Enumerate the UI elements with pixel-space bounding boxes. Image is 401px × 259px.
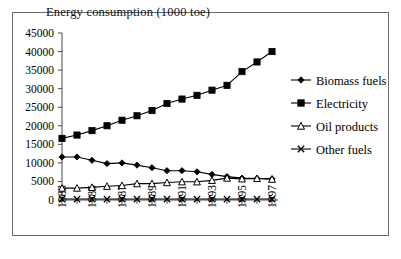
x-tick-label: 1993 [206,185,218,208]
legend-item-oil-products[interactable]: Oil products [291,120,378,134]
data-point-square-filled [164,100,170,106]
data-point-square-filled [59,135,65,141]
y-tick-label: 10000 [25,157,54,169]
legend-item-electricity[interactable]: Electricity [291,97,369,111]
data-point-diamond-filled [149,165,155,171]
legend-label: Electricity [316,97,369,111]
data-point-diamond-filled [298,77,304,83]
data-point-diamond-filled [74,154,80,160]
data-point-square-filled [149,107,155,113]
y-tick-label: 0 [48,194,54,206]
legend-label: Biomass fuels [316,74,387,88]
data-point-diamond-filled [134,162,140,168]
x-tick-label: 1997 [266,185,278,208]
y-tick-label: 25000 [25,101,54,113]
y-tick-label: 35000 [25,64,54,76]
x-tick-label: 1995 [236,185,248,208]
data-point-diamond-filled [89,157,95,163]
y-tick-label: 40000 [25,46,54,58]
legend-label: Oil products [316,120,378,134]
y-tick-label: 20000 [25,120,54,132]
data-point-square-filled [119,117,125,123]
y-tick-label: 30000 [25,83,54,95]
data-point-square-filled [298,100,304,106]
data-point-square-filled [209,87,215,93]
legend-item-other-fuels[interactable]: Other fuels [291,143,372,157]
data-point-diamond-filled [59,154,65,160]
data-point-square-filled [269,48,275,54]
figure: Energy consumption (1000 toe) 0500010000… [0,0,401,259]
data-point-square-filled [179,96,185,102]
series-layer [59,48,276,202]
data-point-square-filled [224,82,230,88]
legend-label: Other fuels [316,143,372,157]
data-point-square-filled [74,132,80,138]
data-point-diamond-filled [194,169,200,175]
y-tick-label: 45000 [25,27,54,39]
data-point-square-filled [194,92,200,98]
data-point-diamond-filled [179,168,185,174]
y-tick-label: 15000 [25,138,54,150]
data-point-diamond-filled [164,168,170,174]
y-tick-label: 5000 [31,175,54,187]
x-tick-label: 1991 [176,185,188,208]
chart-plot: 0500010000150002000025000300003500040000… [0,0,401,259]
data-point-diamond-filled [119,160,125,166]
x-tick-label: 1989 [146,185,158,208]
data-point-square-filled [134,113,140,119]
data-point-square-filled [104,123,110,129]
data-point-diamond-filled [104,161,110,167]
legend-item-biomass-fuels[interactable]: Biomass fuels [291,74,387,88]
data-point-square-filled [89,128,95,134]
series-electricity [59,48,275,141]
y-axis: 0500010000150002000025000300003500040000… [25,27,62,206]
data-point-square-filled [254,59,260,65]
legend: Biomass fuelsElectricityOil productsOthe… [291,74,387,157]
data-point-square-filled [239,68,245,74]
